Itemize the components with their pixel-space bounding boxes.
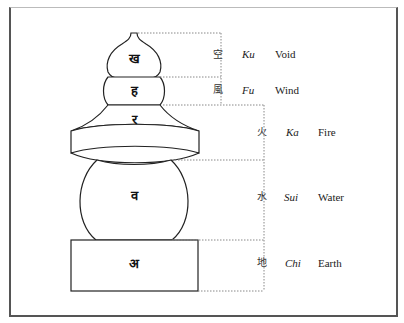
void-romaji: Ku — [242, 48, 255, 60]
fire-kanji: 火 — [257, 126, 267, 138]
water-romaji: Sui — [284, 191, 298, 203]
earth-english: Earth — [318, 257, 342, 269]
earth-seed-syllable: अ — [124, 257, 144, 270]
fire-seed-syllable: र — [124, 113, 144, 126]
earth-romaji: Chi — [285, 257, 301, 269]
void-kanji: 空 — [213, 49, 223, 61]
stupa-diagram — [0, 0, 404, 323]
water-kanji: 水 — [257, 191, 267, 203]
void-seed-syllable: ख — [124, 52, 144, 65]
wind-english: Wind — [275, 84, 299, 96]
fire-band-shape — [71, 124, 199, 153]
water-seed-syllable: व — [124, 189, 144, 202]
wind-seed-syllable: ह — [124, 84, 144, 97]
wind-kanji: 風 — [213, 84, 223, 96]
earth-kanji: 地 — [257, 257, 267, 269]
wind-romaji: Fu — [242, 84, 254, 96]
fire-english: Fire — [318, 126, 336, 138]
fire-romaji: Ka — [286, 126, 299, 138]
water-english: Water — [318, 191, 344, 203]
void-english: Void — [275, 48, 296, 60]
